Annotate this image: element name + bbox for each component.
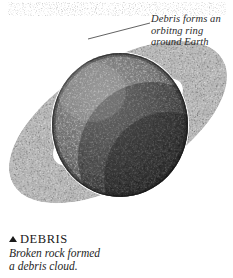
annotation-line-1: Debris forms an <box>151 13 233 25</box>
caption-heading-row: DEBRIS <box>9 232 159 246</box>
caption-line-2: a debris cloud. <box>9 260 159 273</box>
debris-figure: Debris forms an orbitng ring around Eart… <box>0 0 233 278</box>
figure-caption: DEBRIS Broken rock formed a debris cloud… <box>9 232 159 273</box>
annotation-callout: Debris forms an orbitng ring around Eart… <box>151 13 233 48</box>
caption-line-1: Broken rock formed <box>9 247 159 260</box>
annotation-line-2: orbitng ring <box>151 25 233 37</box>
annotation-line-3: around Earth <box>151 36 233 48</box>
up-triangle-bullet-icon <box>9 236 17 242</box>
caption-heading: DEBRIS <box>20 232 68 246</box>
caption-body: Broken rock formed a debris cloud. <box>9 247 159 273</box>
